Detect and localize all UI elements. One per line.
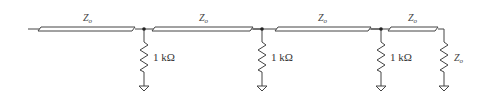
tl1-label: Zo <box>83 12 93 25</box>
transmission-line-3 <box>253 27 381 31</box>
shunt-resistor-2 <box>257 29 267 91</box>
resistor-1-label: 1 kΩ <box>153 51 175 63</box>
tl4-label: Zo <box>408 12 418 25</box>
transmission-line-2 <box>152 27 253 31</box>
termination-label: Zo <box>454 52 464 65</box>
ground-icon <box>439 86 449 91</box>
circuit-diagram: Zo Zo Zo Zo 1 kΩ 1 kΩ 1 kΩ Zo <box>0 0 484 98</box>
tl3-label: Zo <box>318 12 328 25</box>
termination-resistor <box>439 29 449 91</box>
junction-node-3 <box>379 27 383 31</box>
tl2-label: Zo <box>199 12 209 25</box>
ground-icon <box>257 86 267 91</box>
junction-node-2 <box>260 27 264 31</box>
shunt-resistor-3 <box>376 29 386 91</box>
ground-icon <box>139 86 149 91</box>
resistor-3-label: 1 kΩ <box>390 51 412 63</box>
resistor-2-label: 1 kΩ <box>271 51 293 63</box>
shunt-resistor-1 <box>139 29 149 91</box>
junction-node-1 <box>142 27 146 31</box>
ground-icon <box>376 86 386 91</box>
